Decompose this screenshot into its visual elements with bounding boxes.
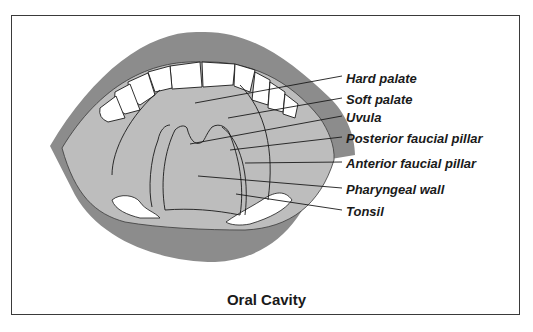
- label-tonsil: Tonsil: [346, 205, 384, 218]
- diagram-title: Oral Cavity: [0, 291, 533, 308]
- label-hard-palate: Hard palate: [346, 72, 417, 85]
- label-posterior-faucial-pillar: Posterior faucial pillar: [346, 132, 483, 145]
- label-uvula: Uvula: [346, 111, 381, 124]
- label-soft-palate: Soft palate: [346, 93, 412, 106]
- label-anterior-faucial-pillar: Anterior faucial pillar: [346, 157, 476, 170]
- label-pharyngeal-wall: Pharyngeal wall: [346, 183, 444, 196]
